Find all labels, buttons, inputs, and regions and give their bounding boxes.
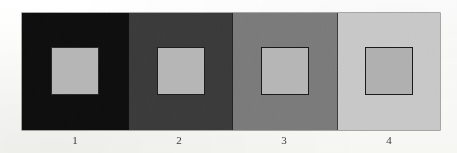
- test-square-4: [365, 47, 413, 95]
- test-square-1: [51, 47, 99, 95]
- contrast-panel-2: [128, 13, 232, 130]
- figure-root: 1 2 3 4: [0, 0, 457, 153]
- panel-strip: [22, 13, 440, 130]
- panel-caption-3: 3: [269, 133, 299, 147]
- test-square-3: [261, 47, 309, 95]
- contrast-panel-4: [337, 13, 440, 130]
- panel-caption-2: 2: [164, 133, 194, 147]
- panel-caption-4: 4: [374, 133, 404, 147]
- test-square-2: [157, 47, 205, 95]
- contrast-panel-3: [232, 13, 337, 130]
- contrast-panel-1: [22, 13, 128, 130]
- panel-caption-1: 1: [60, 133, 90, 147]
